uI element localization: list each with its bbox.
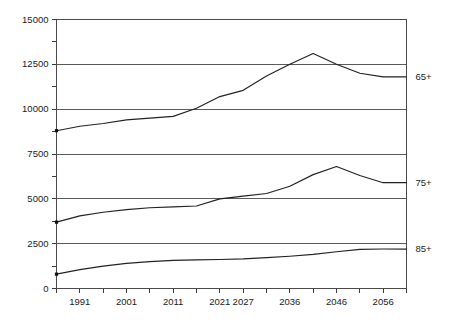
x-tick-label: 1991 (69, 296, 90, 307)
y-tick-label: 7500 (27, 148, 48, 159)
series-start-marker-65plus (55, 129, 58, 132)
series-line-75plus (57, 167, 407, 223)
y-tick-label: 15000 (22, 14, 48, 25)
series-label-75plus: 75+ (416, 177, 433, 188)
gridlines-group (57, 20, 407, 289)
series-label-65plus: 65+ (416, 71, 433, 82)
line-chart: 0250050007500100001250015000 19912001201… (0, 0, 452, 325)
x-tick-label: 2027 (233, 296, 254, 307)
x-tick-label: 2001 (116, 296, 137, 307)
y-axis-tick-labels: 0250050007500100001250015000 (22, 14, 48, 294)
chart-canvas: 0250050007500100001250015000 19912001201… (0, 0, 452, 325)
series-line-65plus (57, 54, 407, 131)
x-tick-label: 2056 (373, 296, 394, 307)
y-axis-ticks (52, 20, 57, 289)
series-start-marker-75plus (55, 221, 58, 224)
y-tick-label: 12500 (22, 58, 48, 69)
series-start-marker-85plus (55, 273, 58, 276)
x-axis-ticks (57, 289, 407, 294)
x-tick-label: 2021 (209, 296, 230, 307)
y-tick-label: 10000 (22, 103, 48, 114)
y-tick-label: 0 (43, 283, 48, 294)
x-tick-label: 2046 (326, 296, 347, 307)
y-tick-label: 2500 (27, 238, 48, 249)
x-tick-label: 2036 (279, 296, 300, 307)
y-tick-label: 5000 (27, 193, 48, 204)
series-label-85plus: 85+ (416, 243, 433, 254)
series-line-85plus (57, 249, 407, 274)
x-tick-label: 2011 (163, 296, 183, 307)
series-labels-group: 65+75+85+ (416, 71, 433, 254)
series-lines-group (55, 54, 407, 276)
x-axis-tick-labels: 19912001201120212027203620462056 (69, 296, 393, 307)
